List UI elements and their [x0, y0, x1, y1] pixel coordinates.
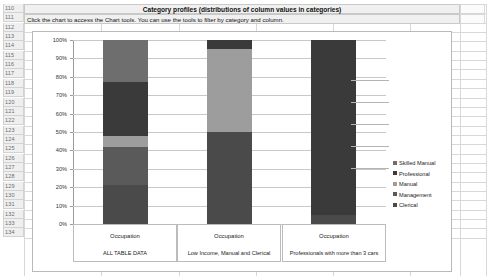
legend-swatch-icon	[393, 192, 397, 196]
row-header-112[interactable]: 112	[3, 23, 24, 32]
y-axis-label: 90%	[33, 55, 67, 61]
y-axis-label: 100%	[33, 37, 67, 43]
stacked-bar[interactable]	[311, 40, 356, 224]
y-axis-tick	[70, 169, 73, 170]
y-axis-tick	[70, 77, 73, 78]
row-header-118[interactable]: 118	[3, 79, 24, 88]
legend-swatch-icon	[393, 171, 397, 175]
chart-object[interactable]: 100%90%80%70%60%50%40%30%20%10%0% Occupa…	[32, 31, 452, 272]
legend-label: Clerical	[399, 202, 418, 208]
row-header-121[interactable]: 121	[3, 107, 24, 116]
legend-leader-line	[351, 168, 389, 169]
y-axis-tick	[70, 187, 73, 188]
bar-segment-clerical[interactable]	[311, 215, 356, 224]
legend-item-clerical[interactable]: Clerical	[393, 202, 451, 213]
row-header-117[interactable]: 117	[3, 69, 24, 78]
y-axis-label: 80%	[33, 74, 67, 80]
category-cell[interactable]: OccupationProfessionals with more than 3…	[282, 224, 386, 262]
legend-item-professional[interactable]: Professional	[393, 171, 451, 182]
y-axis-tick	[70, 114, 73, 115]
bar-segment-manual[interactable]	[207, 49, 252, 132]
spreadsheet-canvas: 1101111121131141151161171181191201211221…	[0, 0, 487, 280]
chart-legend[interactable]: Skilled ManualProfessionalManualManageme…	[393, 160, 451, 213]
y-axis-label: 60%	[33, 111, 67, 117]
stacked-bar[interactable]	[207, 40, 252, 224]
bar-segment-skilled-manual[interactable]	[103, 40, 148, 82]
y-axis-tick	[70, 132, 73, 133]
row-header-133[interactable]: 133	[3, 219, 24, 228]
legend-swatch-icon	[393, 182, 397, 186]
row-header-111[interactable]: 111	[3, 13, 24, 22]
row-header-120[interactable]: 120	[3, 98, 24, 107]
category-name: Occupation	[283, 233, 385, 239]
row-header-124[interactable]: 124	[3, 135, 24, 144]
bar-segment-manual[interactable]	[103, 136, 148, 147]
y-axis-label: 70%	[33, 92, 67, 98]
row-header-130[interactable]: 130	[3, 191, 24, 200]
y-axis-tick	[70, 58, 73, 59]
legend-leader-line	[351, 146, 389, 147]
category-name: Occupation	[74, 233, 176, 239]
row-header-110[interactable]: 110	[3, 4, 24, 13]
bar-segment-professional[interactable]	[311, 40, 356, 215]
row-header-127[interactable]: 127	[3, 163, 24, 172]
category-name: Occupation	[178, 233, 280, 239]
row-header-134[interactable]: 134	[3, 228, 24, 237]
y-axis-tick	[70, 150, 73, 151]
category-sublabel: ALL TABLE DATA	[74, 250, 176, 256]
legend-item-management[interactable]: Management	[393, 192, 451, 203]
legend-item-manual[interactable]: Manual	[393, 181, 451, 192]
legend-swatch-icon	[393, 203, 397, 207]
legend-label: Skilled Manual	[399, 160, 435, 166]
y-axis-label: 20%	[33, 184, 67, 190]
y-axis-label: 40%	[33, 147, 67, 153]
legend-item-skilled-manual[interactable]: Skilled Manual	[393, 160, 451, 171]
row-header-123[interactable]: 123	[3, 126, 24, 135]
y-axis-tick	[70, 40, 73, 41]
bar-segment-clerical[interactable]	[207, 132, 252, 224]
row-header-129[interactable]: 129	[3, 182, 24, 191]
row-header-132[interactable]: 132	[3, 210, 24, 219]
legend-swatch-icon	[393, 161, 397, 165]
y-axis-tick	[70, 95, 73, 96]
category-axis-table: OccupationALL TABLE DATAOccupationLow In…	[73, 224, 386, 262]
row-header-122[interactable]: 122	[3, 116, 24, 125]
category-cell[interactable]: OccupationLow Income, Manual and Clerica…	[177, 224, 281, 262]
sheet-column-divider	[24, 4, 25, 276]
instruction-row-tail-cell	[460, 14, 485, 24]
legend-label: Management	[399, 192, 432, 198]
y-axis-label: 10%	[33, 203, 67, 209]
category-cell[interactable]: OccupationALL TABLE DATA	[73, 224, 177, 262]
bar-segment-clerical[interactable]	[103, 185, 148, 224]
legend-leader-line	[351, 80, 389, 81]
chart-plot-area[interactable]: 100%90%80%70%60%50%40%30%20%10%0%	[73, 40, 386, 224]
category-sublabel: Low Income, Manual and Clerical	[178, 250, 280, 256]
bar-segment-professional[interactable]	[207, 40, 252, 49]
bar-segment-professional[interactable]	[103, 82, 148, 135]
row-header-128[interactable]: 128	[3, 172, 24, 181]
page-title: Category profiles (distributions of colu…	[24, 4, 460, 14]
row-header-114[interactable]: 114	[3, 41, 24, 50]
y-axis-tick	[70, 206, 73, 207]
legend-leader-line	[351, 124, 389, 125]
row-header-113[interactable]: 113	[3, 32, 24, 41]
instruction-text: Click the chart to access the Chart tool…	[24, 14, 460, 24]
y-axis-label: 50%	[33, 129, 67, 135]
y-axis-label: 0%	[33, 221, 67, 227]
row-header-119[interactable]: 119	[3, 88, 24, 97]
row-header-115[interactable]: 115	[3, 51, 24, 60]
row-header-116[interactable]: 116	[3, 60, 24, 69]
row-header-125[interactable]: 125	[3, 144, 24, 153]
category-sublabel: Professionals with more than 3 cars	[283, 250, 385, 256]
legend-label: Manual	[399, 181, 417, 187]
y-axis-label: 30%	[33, 166, 67, 172]
bar-segment-management[interactable]	[103, 147, 148, 186]
row-header-131[interactable]: 131	[3, 200, 24, 209]
legend-leader-line	[351, 102, 389, 103]
stacked-bar[interactable]	[103, 40, 148, 224]
row-header-126[interactable]: 126	[3, 154, 24, 163]
sheet-column-divider	[460, 4, 461, 276]
title-row-tail-cell	[460, 4, 485, 14]
legend-label: Professional	[399, 171, 430, 177]
